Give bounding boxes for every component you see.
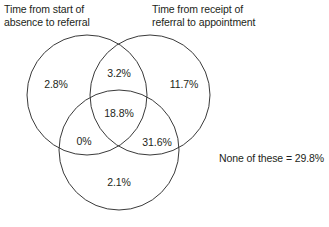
region-value-left-right: 3.2% [107,68,131,79]
region-value-left-only: 2.8% [44,79,68,90]
region-value-all-three: 18.8% [104,108,133,119]
region-value-left-bottom: 0% [77,136,92,147]
region-value-right-bottom: 31.6% [142,137,171,148]
region-value-right-only: 11.7% [170,79,199,90]
venn-diagram-figure: Time from start of absence to referral T… [0,0,329,227]
venn-circles [0,0,329,227]
region-value-bottom-only: 2.1% [107,177,131,188]
outside-region-note: None of these = 29.8% [219,152,324,164]
